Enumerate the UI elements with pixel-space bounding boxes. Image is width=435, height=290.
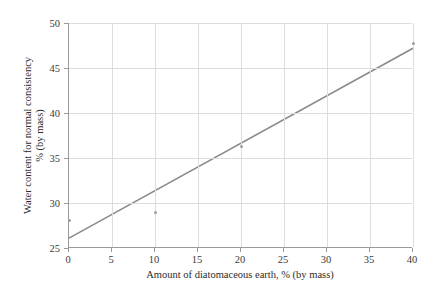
data-point bbox=[154, 211, 157, 214]
x-axis-tick-label: 10 bbox=[134, 253, 174, 266]
y-axis-tick bbox=[64, 68, 68, 69]
x-axis-tick-label: 5 bbox=[91, 253, 131, 266]
gridline-horizontal bbox=[69, 113, 412, 114]
y-axis-tick bbox=[64, 113, 68, 114]
gridline-vertical bbox=[112, 23, 113, 247]
gridline-vertical bbox=[370, 23, 371, 247]
y-axis-tick bbox=[64, 203, 68, 204]
x-axis-tick bbox=[154, 248, 155, 252]
gridline-horizontal bbox=[69, 23, 412, 24]
gridline-horizontal bbox=[69, 203, 412, 204]
x-axis-tick bbox=[111, 248, 112, 252]
gridline-horizontal bbox=[69, 158, 412, 159]
x-axis-tick bbox=[68, 248, 69, 252]
y-axis-title: Water content for normal consistency % (… bbox=[19, 23, 49, 248]
y-axis-title-line1: Water content for normal consistency bbox=[22, 57, 35, 214]
x-axis-tick-label: 15 bbox=[177, 253, 217, 266]
y-axis-tick bbox=[64, 248, 68, 249]
y-axis-tick bbox=[64, 158, 68, 159]
x-axis-tick-label: 40 bbox=[392, 253, 432, 266]
x-axis-tick bbox=[283, 248, 284, 252]
gridline-vertical bbox=[198, 23, 199, 247]
y-axis-title-line2: % (by mass) bbox=[34, 109, 47, 162]
x-axis-tick-label: 30 bbox=[306, 253, 346, 266]
x-axis-title: Amount of diatomaceous earth, % (by mass… bbox=[68, 269, 412, 280]
gridline-vertical bbox=[413, 23, 414, 247]
gridline-vertical bbox=[327, 23, 328, 247]
chart-container: 0510152025303540253035404550 Amount of d… bbox=[0, 0, 435, 290]
data-point bbox=[240, 145, 243, 148]
x-axis-tick bbox=[240, 248, 241, 252]
plot-area bbox=[68, 23, 412, 248]
x-axis-tick bbox=[197, 248, 198, 252]
x-axis-tick bbox=[412, 248, 413, 252]
data-point bbox=[412, 42, 415, 45]
gridline-vertical bbox=[284, 23, 285, 247]
y-axis-tick bbox=[64, 23, 68, 24]
x-axis-tick-label: 0 bbox=[48, 253, 88, 266]
x-axis-tick-label: 25 bbox=[263, 253, 303, 266]
gridline-horizontal bbox=[69, 68, 412, 69]
x-axis-tick bbox=[369, 248, 370, 252]
data-point bbox=[68, 219, 71, 222]
x-axis-tick-label: 20 bbox=[220, 253, 260, 266]
x-axis-tick-label: 35 bbox=[349, 253, 389, 266]
x-axis-tick bbox=[326, 248, 327, 252]
gridline-vertical bbox=[241, 23, 242, 247]
